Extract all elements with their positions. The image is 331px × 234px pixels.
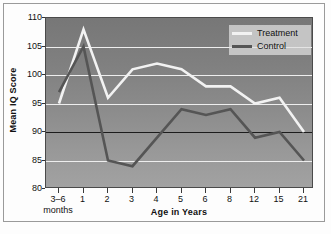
y-axis-ticks: 80859095100105110 [0,17,42,188]
y-tick-label-100: 100 [2,69,42,79]
x-tick-mark-1 [83,188,84,193]
x-tick-mark-7 [230,188,231,193]
y-tick-label-105: 105 [2,41,42,51]
chart-figure: Mean IQ Score 80859095100105110 Treatmen… [0,0,331,234]
x-tick-mark-10 [303,188,304,193]
legend-swatch-treatment [232,32,252,35]
x-tick-mark-8 [254,188,255,193]
legend-item-treatment: Treatment [232,27,308,40]
x-tick-mark-0 [58,188,59,193]
legend-swatch-control [232,45,252,48]
x-tick-mark-3 [132,188,133,193]
x-tick-mark-9 [279,188,280,193]
y-tick-label-90: 90 [2,126,42,136]
y-tick-label-80: 80 [2,183,42,193]
x-tick-mark-6 [205,188,206,193]
legend-item-control: Control [232,40,308,53]
legend-label-control: Control [257,41,286,52]
x-tick-mark-4 [156,188,157,193]
x-tick-mark-2 [107,188,108,193]
y-tick-label-85: 85 [2,155,42,165]
legend: Treatment Control [229,25,311,55]
y-tick-label-95: 95 [2,98,42,108]
x-tick-label-10: 21 [283,194,323,205]
y-tick-label-110: 110 [2,12,42,22]
x-tick-mark-5 [181,188,182,193]
legend-label-treatment: Treatment [257,28,298,39]
x-axis-title: Age in Years [45,207,313,217]
